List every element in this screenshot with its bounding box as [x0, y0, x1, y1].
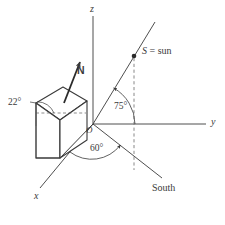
- sun-point-marker: [132, 54, 137, 59]
- south-direction-label: South: [152, 183, 175, 193]
- roof-block: [36, 87, 87, 158]
- axis-label-x: x: [34, 191, 38, 201]
- origin-label: O: [86, 126, 93, 135]
- axis-label-y: y: [211, 117, 215, 127]
- axis-label-z: z: [90, 4, 94, 14]
- angle-label-sun-azimuth: 60°: [90, 144, 103, 154]
- angle-label-sun-elevation: 75°: [114, 102, 127, 112]
- south-ray: [93, 124, 162, 178]
- figure-container: z y x O 22° 75° 60° N S = sun South: [0, 0, 225, 225]
- angle-label-roof-tilt: 22°: [8, 98, 21, 108]
- sun-word: sun: [158, 45, 172, 56]
- sun-symbol: S: [142, 45, 147, 56]
- normal-vector-label: N: [77, 65, 85, 76]
- sun-point-label: S = sun: [142, 46, 172, 56]
- sun-equals: =: [150, 45, 156, 56]
